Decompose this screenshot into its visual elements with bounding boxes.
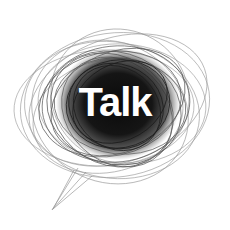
- talk-illustration: Talk: [0, 0, 230, 230]
- talk-label: Talk: [0, 80, 230, 124]
